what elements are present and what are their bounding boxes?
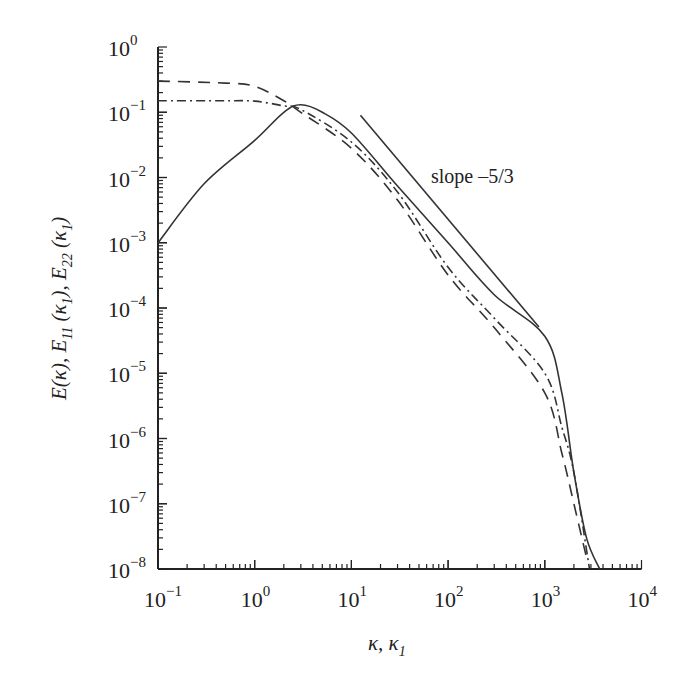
y-axis-label: E(κ), E11 (κ1), E22 (κ1) xyxy=(47,217,75,401)
x-tick-label: 100 xyxy=(241,583,271,612)
y-tick-labels: 10010−110−210−310−410−510−610−710−8 xyxy=(108,32,146,583)
axes xyxy=(158,47,642,569)
x-tick-label: 102 xyxy=(434,583,464,612)
data-series xyxy=(158,81,600,569)
x-tick-labels: 10−1100101102103104 xyxy=(144,583,658,612)
x-tick-label: 103 xyxy=(531,583,561,612)
x-tick-label: 10−1 xyxy=(144,583,182,612)
slope-annotation: slope –5/3 xyxy=(431,165,514,188)
y-tick-label: 10−3 xyxy=(108,228,146,257)
tick-marks xyxy=(158,47,642,569)
spectrum-chart: 10−1100101102103104 10010−110−210−310−41… xyxy=(0,0,680,678)
y-tick-label: 100 xyxy=(108,32,138,61)
y-tick-label: 10−7 xyxy=(108,489,146,518)
y-tick-label: 10−5 xyxy=(108,358,146,387)
x-tick-label: 104 xyxy=(628,583,658,612)
slope-line xyxy=(360,115,539,327)
y-tick-label: 10−1 xyxy=(108,97,146,126)
slope-reference-line xyxy=(360,115,539,327)
y-tick-label: 10−6 xyxy=(108,424,146,453)
y-tick-label: 10−8 xyxy=(108,554,146,583)
series-solid-curve xyxy=(158,105,600,569)
x-tick-label: 101 xyxy=(337,583,367,612)
y-tick-label: 10−2 xyxy=(108,163,146,192)
y-tick-label: 10−4 xyxy=(108,293,146,322)
x-axis-label: κ, κ1 xyxy=(368,631,406,659)
series-dashed-curve xyxy=(158,81,587,557)
